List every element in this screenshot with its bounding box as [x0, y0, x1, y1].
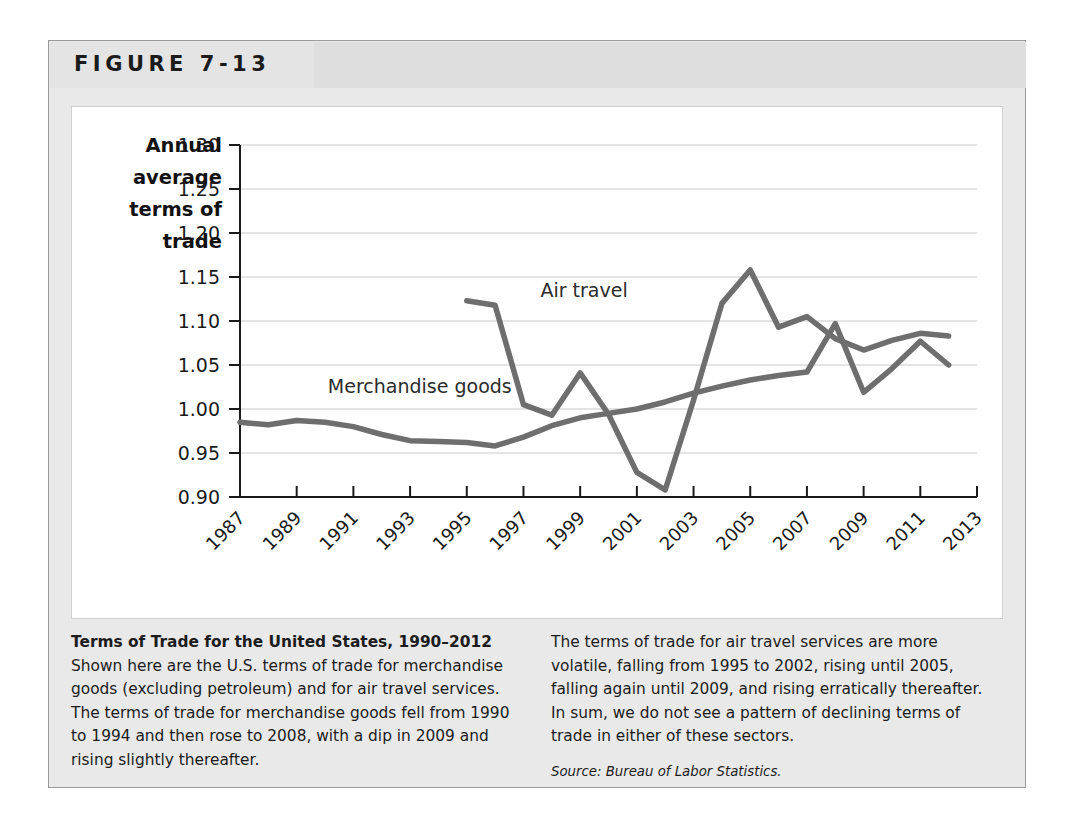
x-axis-tick-label: 2009	[825, 507, 872, 554]
x-axis-tick-label: 1995	[428, 507, 475, 554]
figure-frame: FIGURE 7-13 Annualaverageterms oftrade 1…	[48, 40, 1026, 788]
x-axis-ticks	[240, 486, 977, 497]
x-axis-tick-label: 1989	[258, 507, 305, 554]
figure-header: FIGURE 7-13	[50, 42, 1026, 88]
y-axis-title-line: terms of	[129, 198, 222, 221]
caption-right-column: The terms of trade for air travel servic…	[551, 631, 1001, 784]
grid-lines	[240, 145, 977, 497]
y-axis-tick-label: 1.25	[178, 178, 220, 200]
x-axis-tick-label: 2001	[598, 507, 645, 554]
y-axis-tick-label: 0.95	[178, 442, 220, 464]
y-axis-tick-label: 1.05	[178, 354, 220, 376]
x-axis-tick-label: 1991	[315, 507, 362, 554]
x-axis-tick-label: 2007	[769, 507, 816, 554]
caption-source: Source: Bureau of Labor Statistics.	[551, 760, 1001, 784]
y-axis-tick-label: 1.30	[178, 134, 220, 156]
x-axis-tick-label: 2005	[712, 507, 759, 554]
x-axis-tick-label: 1987	[202, 507, 249, 554]
x-axis-tick-label: 1997	[485, 507, 532, 554]
series-label: Merchandise goods	[328, 375, 512, 397]
caption-right-body: The terms of trade for air travel servic…	[551, 633, 982, 745]
y-axis-tick-label: 1.20	[178, 222, 220, 244]
y-axis-tick-labels: 1.301.251.201.151.101.051.000.950.90	[178, 134, 220, 508]
x-axis-tick-labels: 1987198919911993199519971999200120032005…	[202, 507, 986, 554]
y-axis-tick-label: 1.15	[178, 266, 220, 288]
figure-number-label: FIGURE 7-13	[74, 52, 270, 76]
x-axis-tick-label: 1999	[542, 507, 589, 554]
figure-caption: Terms of Trade for the United States, 19…	[71, 631, 1005, 781]
y-axis-tick-label: 1.00	[178, 398, 220, 420]
y-axis-tick-label: 0.90	[178, 486, 220, 508]
x-axis-tick-label: 2013	[939, 507, 986, 554]
terms-of-trade-line-chart: Annualaverageterms oftrade 1.301.251.201…	[72, 107, 1002, 618]
series-label: Air travel	[540, 279, 627, 301]
caption-left-body: Shown here are the U.S. terms of trade f…	[71, 657, 509, 769]
caption-title: Terms of Trade for the United States, 19…	[71, 633, 492, 651]
y-axis-ticks	[229, 145, 240, 497]
x-axis-tick-label: 2011	[882, 507, 929, 554]
chart-panel: Annualaverageterms oftrade 1.301.251.201…	[71, 106, 1003, 619]
caption-left-column: Terms of Trade for the United States, 19…	[71, 631, 523, 773]
y-axis-tick-label: 1.10	[178, 310, 220, 332]
x-axis-tick-label: 1993	[372, 507, 419, 554]
x-axis-tick-label: 2003	[655, 507, 702, 554]
